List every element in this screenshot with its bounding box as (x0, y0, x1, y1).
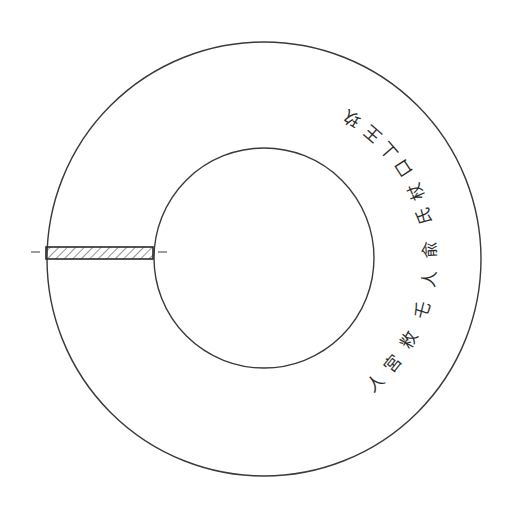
inscription-glyph: 王 (360, 121, 386, 147)
inscription-glyph: 口 (390, 156, 416, 181)
inscription-glyph: 玖 (339, 105, 364, 131)
inscription-glyph: 杖 (403, 180, 428, 204)
bi-disc-drawing: 玖王丄口杖氏兪人乇敉宮人 (0, 0, 511, 507)
cross-section (31, 247, 167, 259)
inscription-glyph: 氏 (412, 205, 436, 227)
inscription-glyph: 宮 (380, 351, 406, 377)
inscription-glyph: 兪 (419, 241, 440, 259)
inscription-glyph: 丄 (376, 137, 402, 163)
inscription-glyph: 敉 (396, 327, 422, 352)
inscription: 玖王丄口杖氏兪人乇敉宮人 (339, 105, 440, 395)
inscription-glyph: 人 (418, 270, 440, 289)
inner-hole-outline (154, 148, 374, 368)
inscription-glyph: 人 (362, 369, 388, 395)
inscription-glyph: 乇 (410, 299, 434, 321)
